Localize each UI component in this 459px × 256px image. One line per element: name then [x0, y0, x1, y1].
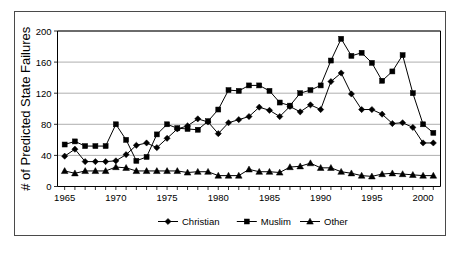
data-point-square: [72, 139, 77, 144]
data-point-square: [195, 127, 200, 132]
x-tick-label: 1985: [259, 192, 280, 203]
data-point-square: [359, 50, 364, 55]
data-point-square: [62, 142, 67, 147]
y-tick-label: 200: [36, 26, 52, 37]
data-point-square: [369, 60, 374, 65]
x-tick-label: 1965: [54, 192, 75, 203]
data-point-diamond: [266, 107, 272, 113]
series-muslim: [62, 36, 436, 163]
data-point-diamond: [430, 140, 436, 146]
data-point-square: [154, 132, 159, 137]
data-point-square: [298, 91, 303, 96]
y-tick-label: 160: [36, 57, 52, 68]
data-point-square: [113, 122, 118, 127]
data-point-square: [308, 88, 313, 93]
data-point-square: [421, 122, 426, 127]
data-point-diamond: [92, 159, 98, 165]
series-line-muslim: [65, 39, 434, 161]
x-tick-label: 1980: [208, 192, 229, 203]
data-point-square: [318, 83, 323, 88]
data-point-diamond: [143, 140, 149, 146]
data-point-square: [134, 158, 139, 163]
x-tick-label: 1995: [361, 192, 382, 203]
data-point-square: [247, 83, 252, 88]
data-point-diamond: [113, 158, 119, 164]
data-point-square: [267, 88, 272, 93]
x-tick-label: 2000: [413, 192, 434, 203]
chart-legend: ChristianMuslimOther: [158, 216, 348, 227]
data-point-square: [175, 126, 180, 131]
legend-label-other: Other: [324, 216, 348, 227]
legend-label-christian: Christian: [182, 216, 220, 227]
legend-marker-christian: [165, 218, 171, 224]
legend-marker-muslim: [244, 219, 249, 224]
data-point-square: [185, 126, 190, 131]
chart-figure: 0408012016020019651970197519801985199019…: [0, 0, 459, 256]
data-point-triangle: [113, 164, 120, 170]
data-point-square: [257, 83, 262, 88]
data-point-square: [226, 88, 231, 93]
line-chart: 0408012016020019651970197519801985199019…: [0, 0, 459, 256]
data-point-diamond: [348, 91, 354, 97]
data-point-triangle: [307, 160, 314, 166]
y-axis-title: # of Predicted State Failures: [18, 26, 33, 191]
data-point-square: [236, 88, 241, 93]
legend-label-muslim: Muslim: [261, 216, 291, 227]
data-point-square: [410, 91, 415, 96]
data-point-square: [328, 58, 333, 63]
data-point-square: [206, 119, 211, 124]
data-point-square: [93, 144, 98, 149]
data-point-square: [400, 53, 405, 58]
data-point-square: [287, 103, 292, 108]
x-tick-label: 1990: [310, 192, 331, 203]
data-point-square: [83, 144, 88, 149]
series-other: [61, 160, 436, 179]
x-tick-label: 1970: [105, 192, 126, 203]
data-point-triangle: [61, 168, 68, 174]
data-point-square: [124, 137, 129, 142]
y-tick-label: 40: [41, 150, 52, 161]
data-point-diamond: [420, 140, 426, 146]
data-point-square: [277, 100, 282, 105]
y-tick-label: 80: [41, 119, 52, 130]
data-point-diamond: [195, 116, 201, 122]
data-point-diamond: [236, 117, 242, 123]
y-tick-label: 120: [36, 88, 52, 99]
data-point-square: [380, 78, 385, 83]
data-point-diamond: [62, 153, 68, 159]
data-point-square: [103, 144, 108, 149]
data-point-diamond: [410, 124, 416, 130]
data-point-diamond: [297, 109, 303, 115]
x-tick-label: 1975: [157, 192, 178, 203]
data-point-square: [216, 107, 221, 112]
data-point-diamond: [307, 102, 313, 108]
data-point-diamond: [318, 106, 324, 112]
data-point-square: [339, 36, 344, 41]
data-point-triangle: [389, 170, 396, 176]
data-point-square: [431, 130, 436, 135]
y-tick-label: 0: [46, 181, 51, 192]
data-point-diamond: [103, 159, 109, 165]
data-point-triangle: [246, 166, 253, 172]
data-point-diamond: [400, 120, 406, 126]
data-point-square: [144, 154, 149, 159]
data-point-square: [349, 53, 354, 58]
data-point-square: [165, 122, 170, 127]
data-point-square: [390, 69, 395, 74]
data-point-diamond: [369, 106, 375, 112]
data-point-diamond: [359, 106, 365, 112]
